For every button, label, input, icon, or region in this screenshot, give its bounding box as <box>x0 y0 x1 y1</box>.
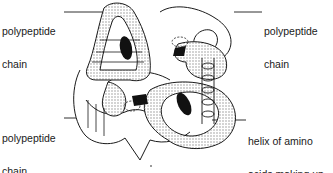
label-line: polypeptide <box>264 26 318 37</box>
label-polypeptide-chain-top-right: polypeptide chain <box>264 4 318 81</box>
dot-marker <box>150 165 152 167</box>
heme-group-3 <box>173 46 186 56</box>
label-line: helix of amino <box>248 136 330 147</box>
label-helix-of-amino-acids: helix of amino acids making up polypepti… <box>248 114 330 173</box>
label-line: chain <box>2 166 56 173</box>
label-line: chain <box>2 59 56 70</box>
label-line: chain <box>264 59 318 70</box>
heme-group-2 <box>173 91 194 118</box>
chain-center-stippled <box>102 82 125 116</box>
label-polypeptide-chain-bottom-left: polypeptide chain <box>2 111 56 173</box>
chain-top-left-stippled <box>86 3 150 81</box>
heme-group-1 <box>118 35 134 61</box>
label-line: polypeptide <box>2 133 56 144</box>
heme-group-4 <box>132 94 148 106</box>
label-polypeptide-chain-top-left: polypeptide chain <box>2 4 56 81</box>
label-line: acids making up <box>248 169 330 173</box>
label-line: polypeptide <box>2 26 56 37</box>
